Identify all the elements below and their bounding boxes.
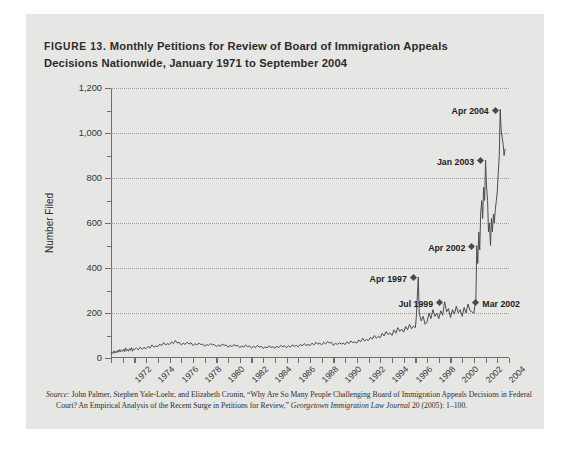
annotation-marker-diamond: [472, 299, 479, 306]
x-tick-label: 2004: [507, 364, 528, 385]
x-tick: [415, 358, 416, 363]
chart-annotation: Apr 2002: [428, 237, 474, 255]
x-tick: [369, 358, 370, 363]
x-tick-label: 1990: [343, 364, 364, 385]
x-tick: [380, 358, 381, 363]
x-tick: [123, 358, 124, 363]
source-label: Source:: [46, 390, 70, 399]
annotation-marker-diamond: [468, 243, 475, 250]
x-tick: [228, 358, 229, 363]
x-tick: [333, 358, 334, 363]
x-tick: [134, 358, 135, 363]
x-tick: [251, 358, 252, 363]
x-tick: [298, 358, 299, 363]
x-tick: [158, 358, 159, 363]
x-tick: [322, 358, 323, 363]
x-tick-label: 1998: [437, 364, 458, 385]
x-tick-label: 1994: [390, 364, 411, 385]
y-tick-label: 200: [86, 308, 102, 318]
chart-annotation: Apr 2004: [452, 100, 498, 118]
x-tick: [205, 358, 206, 363]
chart-annotation: Jan 2003: [437, 151, 483, 169]
y-axis-title: Number Filed: [44, 193, 55, 253]
x-tick-label: 2002: [483, 364, 504, 385]
annotation-label: Jan 2003: [437, 157, 474, 167]
annotation-label: Jul 1999: [398, 299, 433, 309]
x-tick-label: 1982: [249, 364, 270, 385]
source-note: Source: John Palmer, Stephen Yale-Loehr,…: [46, 390, 532, 411]
x-tick-label: 1986: [296, 364, 317, 385]
x-tick-label: 1984: [273, 364, 294, 385]
annotation-label: Apr 1997: [370, 274, 407, 284]
x-tick: [170, 358, 171, 363]
chart-annotation: Jul 1999: [398, 293, 442, 311]
figure-title: FIGURE 13. Monthly Petitions for Review …: [44, 38, 514, 72]
x-tick: [439, 358, 440, 363]
y-tick-label: 400: [86, 263, 102, 273]
x-tick: [275, 358, 276, 363]
x-tick: [486, 358, 487, 363]
x-tick: [111, 358, 112, 363]
annotation-marker-diamond: [477, 157, 484, 164]
annotation-label: Mar 2002: [482, 299, 520, 309]
figure-title-line1: Monthly Petitions for Review of Board of…: [110, 40, 448, 52]
x-tick: [181, 358, 182, 363]
chart-annotation: Mar 2002: [473, 293, 520, 311]
annotation-label: Apr 2004: [452, 106, 489, 116]
chart-annotation: Apr 1997: [370, 268, 416, 286]
figure-number: FIGURE 13.: [44, 41, 106, 52]
x-tick-label: 1988: [320, 364, 341, 385]
y-tick-label: 0: [97, 353, 102, 363]
x-tick-label: 1978: [203, 364, 224, 385]
x-tick-label: 2000: [460, 364, 481, 385]
x-tick: [357, 358, 358, 363]
x-tick: [216, 358, 217, 363]
source-tail: 20 (2005): 1–100.: [410, 401, 467, 410]
x-tick: [427, 358, 428, 363]
x-tick: [509, 358, 510, 363]
x-tick: [240, 358, 241, 363]
annotation-label: Apr 2002: [428, 243, 465, 253]
y-tick-label: 800: [86, 173, 102, 183]
x-tick: [193, 358, 194, 363]
x-tick: [474, 358, 475, 363]
x-tick: [287, 358, 288, 363]
x-tick-label: 1976: [179, 364, 200, 385]
figure-title-line2: Decisions Nationwide, January 1971 to Se…: [44, 57, 347, 69]
x-tick-label: 1996: [413, 364, 434, 385]
y-tick-label: 1,200: [79, 83, 102, 93]
x-tick: [345, 358, 346, 363]
source-journal: Georgetown Immigration Law Journal: [291, 401, 410, 410]
y-tick-label: 1,000: [79, 128, 102, 138]
x-tick: [450, 358, 451, 363]
x-tick: [392, 358, 393, 363]
chart-plot-area: Number Filed 02004006008001,0001,200 197…: [111, 88, 509, 358]
x-tick: [310, 358, 311, 363]
x-tick-label: 1974: [156, 364, 177, 385]
annotation-marker-diamond: [492, 107, 499, 114]
x-tick-label: 1992: [366, 364, 387, 385]
x-tick: [462, 358, 463, 363]
annotation-marker-diamond: [436, 299, 443, 306]
annotation-marker-diamond: [410, 274, 417, 281]
x-tick-label: 1980: [226, 364, 247, 385]
x-tick: [263, 358, 264, 363]
data-series-line: [111, 88, 509, 358]
x-tick: [146, 358, 147, 363]
x-tick-label: 1972: [132, 364, 153, 385]
x-tick: [404, 358, 405, 363]
figure-panel: FIGURE 13. Monthly Petitions for Review …: [26, 14, 544, 429]
y-tick-label: 600: [86, 218, 102, 228]
x-tick: [497, 358, 498, 363]
